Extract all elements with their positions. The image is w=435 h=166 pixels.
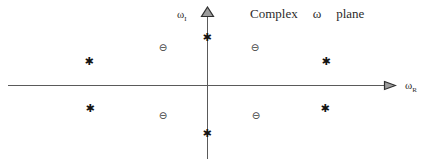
complex-omega-plane-diagram: ωI ωR Complex ω plane ✱✱✱✱✱✱⊖⊖⊖⊖ bbox=[0, 0, 435, 166]
circle-marker: ⊖ bbox=[252, 111, 260, 121]
diagram-title-word-1: Complex bbox=[250, 7, 298, 20]
circle-marker: ⊖ bbox=[251, 43, 259, 53]
imaginary-axis-label-sub: I bbox=[184, 15, 186, 23]
circle-marker: ⊖ bbox=[159, 111, 167, 121]
diagram-title: Complex ω plane bbox=[250, 7, 364, 20]
star-marker: ✱ bbox=[320, 103, 329, 114]
real-axis-line bbox=[8, 85, 387, 86]
circle-marker: ⊖ bbox=[159, 43, 167, 53]
real-axis-label: ωR bbox=[405, 80, 417, 94]
star-marker: ✱ bbox=[321, 56, 330, 67]
star-marker: ✱ bbox=[84, 56, 93, 67]
star-marker: ✱ bbox=[202, 32, 211, 43]
up-arrowhead-icon bbox=[200, 6, 215, 18]
star-marker: ✱ bbox=[202, 128, 211, 139]
diagram-title-omega: ω bbox=[313, 7, 322, 20]
imaginary-axis-label: ωI bbox=[177, 9, 187, 23]
diagram-title-word-2: plane bbox=[336, 7, 364, 20]
right-arrowhead-icon bbox=[383, 80, 397, 91]
star-marker: ✱ bbox=[85, 103, 94, 114]
real-axis-label-sub: R bbox=[412, 86, 417, 94]
